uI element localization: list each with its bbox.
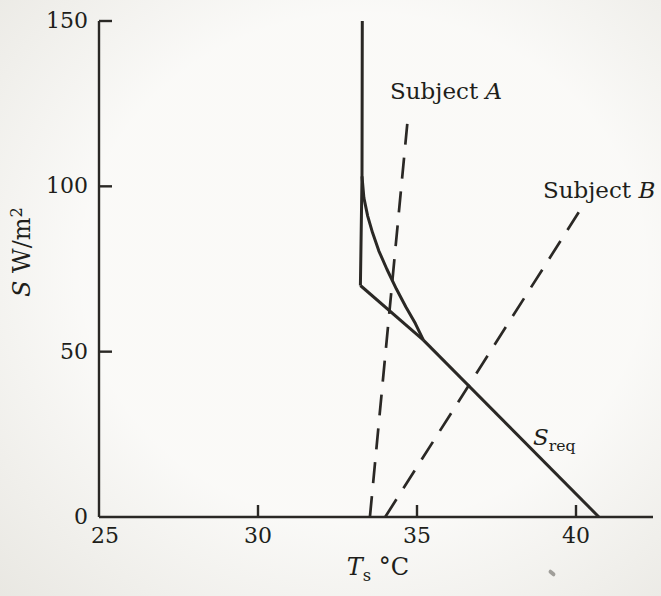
sreq-label: Sreq bbox=[533, 424, 575, 455]
x-axis-title: Ts °C bbox=[347, 553, 409, 585]
subject-b-label: Subject B bbox=[543, 177, 655, 203]
scanned-chart-figure: 05010015025303540Subject ASubject BSreqT… bbox=[0, 0, 661, 596]
series-subject-b-line bbox=[385, 210, 580, 517]
y-tick-label-0: 0 bbox=[74, 504, 88, 529]
series-subject-a-line bbox=[370, 115, 408, 517]
series-sreq-line bbox=[423, 340, 599, 517]
y-tick-label-100: 100 bbox=[46, 173, 88, 198]
x-tick-label-25: 25 bbox=[91, 523, 119, 548]
series-sreq-curve bbox=[362, 176, 423, 340]
figure-svg: 05010015025303540Subject ASubject BSreqT… bbox=[0, 0, 661, 596]
x-tick-label-30: 30 bbox=[244, 523, 272, 548]
y-tick-label-150: 150 bbox=[46, 8, 88, 33]
y-tick-label-50: 50 bbox=[60, 339, 88, 364]
series-sreq-vertical-asymptote bbox=[360, 21, 362, 286]
subject-a-label: Subject A bbox=[390, 78, 502, 104]
y-axis-title: S W/m2 bbox=[7, 207, 36, 297]
x-tick-label-35: 35 bbox=[403, 523, 431, 548]
x-tick-label-40: 40 bbox=[562, 523, 590, 548]
